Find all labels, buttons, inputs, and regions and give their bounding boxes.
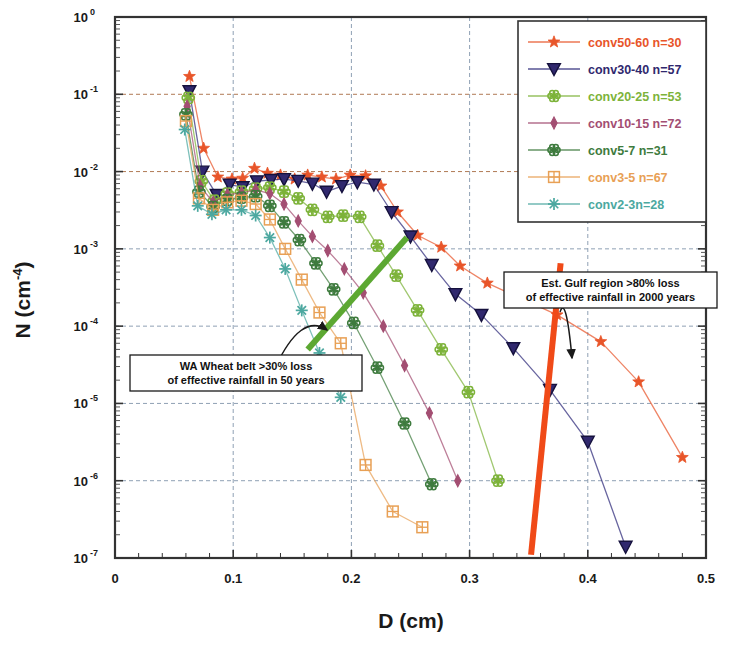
x-tick-label: 0 [111,571,118,586]
x-axis-title: D (cm) [378,609,443,632]
x-tick-label: 0.3 [461,571,479,586]
svg-text:10: 10 [74,87,88,102]
legend-label: conv2-3n=28 [588,198,664,212]
x-tick-label: 0.2 [342,571,360,586]
svg-text:10: 10 [74,10,88,25]
svg-text:10: 10 [74,165,88,180]
legend[interactable]: conv50-60 n=30conv30-40 n=57conv20-25 n=… [518,21,706,222]
data-point-marker [179,124,191,136]
svg-text:10: 10 [74,551,88,566]
svg-text:-6: -6 [90,471,98,481]
annotation-line-1: Est. Gulf region >80% loss [541,277,679,289]
data-point-marker [279,263,291,275]
x-tick-label: 0.4 [579,571,598,586]
svg-text:-3: -3 [90,239,98,249]
legend-label: conv50-60 n=30 [588,36,682,50]
annotation-line-2: of effective rainfall in 2000 years [526,291,695,303]
svg-text:10: 10 [74,396,88,411]
data-point-marker [264,232,276,244]
svg-text:-2: -2 [90,162,98,172]
data-point-marker [220,204,232,216]
data-point-marker [206,208,218,220]
svg-text:10: 10 [74,242,88,257]
data-point-marker [296,304,308,316]
legend-label: conv3-5 n=67 [588,171,668,185]
data-point-marker [235,204,247,216]
chart-figure: WA Wheat belt >30% lossof effective rain… [0,0,735,648]
y-axis-title-exponent: -4 [10,268,25,280]
annotation-line-1: WA Wheat belt >30% loss [180,360,313,372]
data-point-marker [548,198,560,210]
data-point-marker [250,210,262,222]
svg-text:-7: -7 [90,548,98,558]
svg-text:0: 0 [90,7,95,17]
svg-text:-5: -5 [90,393,98,403]
data-point-marker [192,200,204,212]
legend-item-6[interactable]: conv3-5 n=67 [528,171,668,185]
y-axis-title-base: N (cm [11,280,34,338]
svg-text:10: 10 [74,319,88,334]
x-tick-label: 0.5 [697,571,715,586]
svg-text:-1: -1 [90,84,98,94]
legend-label: conv5-7 n=31 [588,144,668,158]
annotation-line-2: of effective rainfall in 50 years [167,374,324,386]
svg-text:10: 10 [74,474,88,489]
legend-label: conv20-25 n=53 [588,90,682,104]
y-axis-title-close: ) [11,262,34,269]
legend-label: conv30-40 n=57 [588,63,682,77]
legend-label: conv10-15 n=72 [588,117,682,131]
svg-text:-4: -4 [90,316,98,326]
log-linear-scatter-line-chart: WA Wheat belt >30% lossof effective rain… [0,0,735,648]
x-tick-label: 0.1 [224,571,242,586]
data-point-marker [335,391,347,403]
